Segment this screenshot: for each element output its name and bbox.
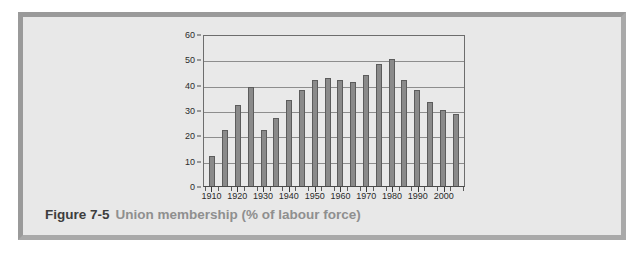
bar-slot [296,36,309,186]
y-tick-label: 30 [185,107,195,116]
bar-slot [385,36,398,186]
bar [453,114,459,186]
x-tick-label: 1960 [330,192,350,201]
bar-slot [398,36,411,186]
bar [248,87,254,186]
bar [235,105,241,186]
x-tick-label: 2000 [434,192,454,201]
y-tick-label: 0 [190,183,195,192]
x-tick-label: 1910 [201,192,221,201]
y-tick-mark [197,85,201,86]
bar-slot [321,36,334,186]
bar [350,82,356,186]
x-tick-label: 1980 [382,192,402,201]
bar [427,102,433,186]
bar-slot [283,36,296,186]
y-tick-label: 20 [185,132,195,141]
bar-slot [206,36,219,186]
bar [312,80,318,186]
bar-slot [424,36,437,186]
bar [389,59,395,186]
x-tick-label: 1990 [408,192,428,201]
bar-slot [436,36,449,186]
bar [299,90,305,186]
bar-slot [219,36,232,186]
bars-container [204,36,464,186]
bar [414,90,420,186]
y-tick-mark [197,161,201,162]
figure-caption: Figure 7-5Union membership (% of labour … [45,208,361,222]
caption-figure-number: Figure 7-5 [45,207,110,222]
bar-chart: 0102030405060 19101920193019401950196019… [173,31,473,211]
y-tick-mark [197,187,201,188]
x-tick-label: 1940 [279,192,299,201]
plot-area [203,35,465,187]
y-axis: 0102030405060 [173,31,201,187]
bar-slot [270,36,283,186]
x-tick-minor [463,187,464,191]
y-tick-mark [197,111,201,112]
y-tick-label: 60 [185,31,195,40]
bar-slot [308,36,321,186]
figure-panel: 0102030405060 19101920193019401950196019… [23,17,621,235]
bar [376,64,382,186]
bar-slot [411,36,424,186]
bar [337,80,343,186]
bar-slot [232,36,245,186]
y-tick-mark [197,60,201,61]
y-tick-mark [197,35,201,36]
bar-slot [360,36,373,186]
bar [325,78,331,186]
bar-slot [347,36,360,186]
x-tick-label: 1970 [356,192,376,201]
bar [209,156,215,186]
bar [222,130,228,186]
bar [261,130,267,186]
y-tick-label: 40 [185,81,195,90]
bar [363,75,369,186]
x-tick-label: 1930 [253,192,273,201]
bar [286,100,292,186]
x-tick-label: 1950 [305,192,325,201]
y-tick-mark [197,136,201,137]
y-tick-label: 50 [185,56,195,65]
bar-slot [372,36,385,186]
bar-slot [334,36,347,186]
caption-title-text: Union membership (% of labour force) [116,207,361,222]
bar [273,118,279,186]
x-axis-labels: 1910192019301940195019601970198019902000 [203,192,465,206]
x-tick-label: 1920 [227,192,247,201]
figure-frame: 0102030405060 19101920193019401950196019… [18,12,626,240]
bar-slot [257,36,270,186]
y-tick-label: 10 [185,157,195,166]
bar [440,110,446,186]
bar-slot [244,36,257,186]
bar-slot [449,36,462,186]
bar [401,80,407,186]
